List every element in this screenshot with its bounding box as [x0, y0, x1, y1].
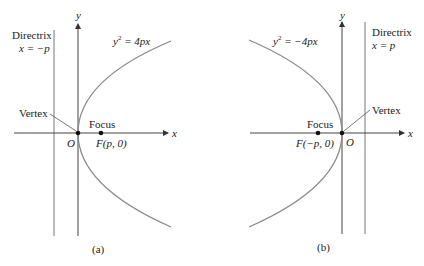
vertex-point [340, 131, 345, 136]
focus-coordinate: F(−p, 0) [295, 137, 334, 150]
directrix-title: Directrix [12, 29, 52, 41]
focus-point [316, 131, 321, 136]
parabola-curve [78, 41, 171, 227]
origin-label: O [67, 137, 75, 149]
focus-point [99, 131, 104, 136]
equation: y2 = −4px [272, 34, 318, 47]
x-axis-label: x [407, 127, 413, 139]
vertex-label: Vertex [372, 104, 401, 116]
focus-label: Focus [307, 118, 333, 130]
caption-b: (b) [317, 241, 330, 254]
parabola-figure: y x Directrix x = −p y2 = 4px Vertex Foc… [0, 0, 424, 266]
vertex-leader [344, 110, 370, 131]
vertex-label: Vertex [19, 107, 48, 119]
caption-a: (a) [92, 243, 105, 256]
x-axis-label: x [171, 127, 177, 139]
vertex-point [76, 131, 81, 136]
focus-coordinate: F(p, 0) [95, 137, 127, 150]
origin-label: O [346, 136, 354, 148]
y-axis-label: y [75, 9, 81, 21]
directrix-equation: x = −p [18, 42, 50, 54]
directrix-equation: x = p [371, 39, 396, 51]
directrix-title: Directrix [372, 26, 412, 38]
panel-b: y x Directrix x = p y2 = −4px Vertex Foc… [249, 9, 413, 254]
panel-a: y x Directrix x = −p y2 = 4px Vertex Foc… [12, 9, 177, 256]
focus-label: Focus [89, 118, 115, 130]
y-axis-label: y [339, 9, 345, 21]
equation: y2 = 4px [112, 34, 150, 47]
